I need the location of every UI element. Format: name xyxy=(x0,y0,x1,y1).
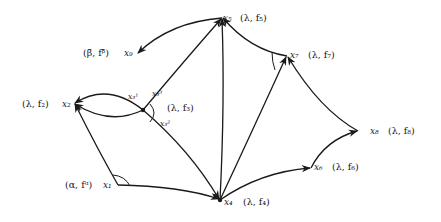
node-x4-label: x₄ xyxy=(224,197,233,207)
node-x8-label: x₈ xyxy=(370,126,379,136)
node-x6-label: x₆ xyxy=(314,162,323,172)
node-x2-label: x₂ xyxy=(62,99,71,109)
node-x8-attr: (λ, f₈) xyxy=(388,125,415,136)
node-x5-attr: (λ, f₅) xyxy=(240,12,267,23)
edge-x7-x5 xyxy=(223,18,287,56)
node-x4-dot xyxy=(218,198,222,202)
node-x4-attr: (λ, f₄) xyxy=(243,196,270,207)
node-x7-attr: (λ, f₇) xyxy=(308,49,335,60)
nodes xyxy=(141,108,222,202)
node-x2-attr: (λ, f₂) xyxy=(22,98,49,109)
port-x3-2-label: x₃² xyxy=(160,119,170,128)
edge-x4-x5 xyxy=(220,19,223,200)
directed-graph-diagram: x₁ (α, fᵅ) x₂ (λ, f₂) (λ, f₃) x₃¹ x₃³ x₃… xyxy=(0,0,441,222)
node-x3-attr: (λ, f₃) xyxy=(167,102,194,113)
edge-x3-x2-lower xyxy=(75,104,143,117)
edge-x5-x9 xyxy=(138,18,222,53)
node-x5-label: x₅ xyxy=(223,13,232,23)
edges xyxy=(75,18,358,200)
angle-marker-x7 xyxy=(272,52,275,70)
port-x3-3-label: x₃³ xyxy=(152,89,162,98)
node-x6-attr: (λ, f₆) xyxy=(332,161,359,172)
node-x3-dot xyxy=(141,108,145,112)
node-x7-label: x₇ xyxy=(290,50,299,60)
node-x1-attr: (α, fᵅ) xyxy=(65,179,92,190)
edge-x8-x7 xyxy=(288,57,358,131)
node-x1-label: x₁ xyxy=(103,180,112,190)
node-x9-attr: (β̄, fᵝ̄) xyxy=(83,47,109,58)
port-x3-1-label: x₃¹ xyxy=(128,92,138,101)
edge-x4-x7 xyxy=(220,57,286,200)
node-labels: x₁ (α, fᵅ) x₂ (λ, f₂) (λ, f₃) x₃¹ x₃³ x₃… xyxy=(22,12,415,207)
edge-x3-x4 xyxy=(143,110,219,199)
edge-x1-x4 xyxy=(118,185,219,199)
node-x9-label: x₉ xyxy=(124,48,133,58)
